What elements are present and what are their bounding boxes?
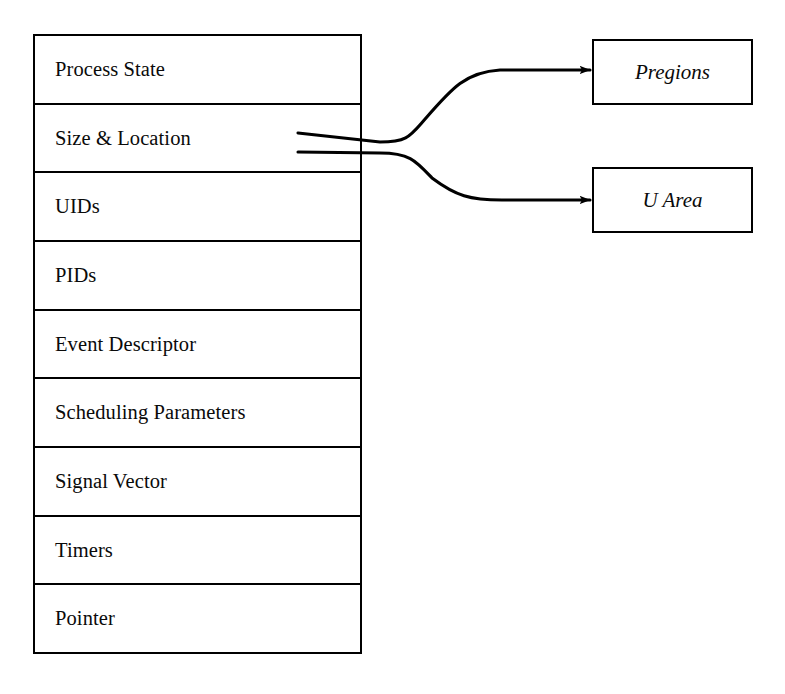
table-row: Event Descriptor: [35, 311, 360, 380]
table-row: UIDs: [35, 173, 360, 242]
row-label-signal-vector: Signal Vector: [35, 471, 167, 492]
row-label-uids: UIDs: [35, 196, 100, 217]
table-row: Process State: [35, 36, 360, 105]
diagram-canvas: Process State Size & Location UIDs PIDs …: [0, 0, 785, 694]
table-row: Size & Location: [35, 105, 360, 174]
table-row: Signal Vector: [35, 448, 360, 517]
row-label-event-descriptor: Event Descriptor: [35, 334, 196, 355]
target-box-pregions: Pregions: [592, 39, 753, 105]
row-label-timers: Timers: [35, 540, 113, 561]
table-row: Scheduling Parameters: [35, 379, 360, 448]
row-label-size-location: Size & Location: [35, 128, 191, 149]
row-label-process-state: Process State: [35, 59, 165, 80]
table-row: PIDs: [35, 242, 360, 311]
target-box-label-pregions: Pregions: [635, 62, 710, 83]
row-label-pointer: Pointer: [35, 608, 115, 629]
target-box-label-u-area: U Area: [642, 190, 702, 211]
process-table-entry: Process State Size & Location UIDs PIDs …: [33, 34, 362, 654]
table-row: Timers: [35, 517, 360, 586]
row-label-scheduling-parameters: Scheduling Parameters: [35, 402, 246, 423]
table-row: Pointer: [35, 585, 360, 652]
row-label-pids: PIDs: [35, 265, 96, 286]
target-box-u-area: U Area: [592, 167, 753, 233]
